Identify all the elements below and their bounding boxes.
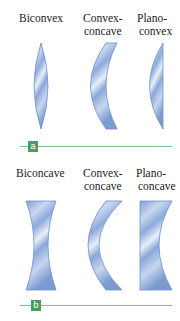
plano-convex-lens (150, 43, 164, 129)
panel-b-badge: b (31, 300, 41, 311)
plano-concave-lens (140, 201, 172, 290)
biconcave-lens (26, 201, 56, 290)
convex-concave-lens-a (91, 43, 118, 129)
panel-a-badge: a (28, 141, 38, 152)
biconvex-lens (34, 43, 48, 129)
panel-b-rule (20, 305, 172, 306)
lens-diagram (0, 0, 180, 321)
convex-concave-lens-b (88, 201, 122, 290)
panel-a-rule (20, 146, 172, 147)
